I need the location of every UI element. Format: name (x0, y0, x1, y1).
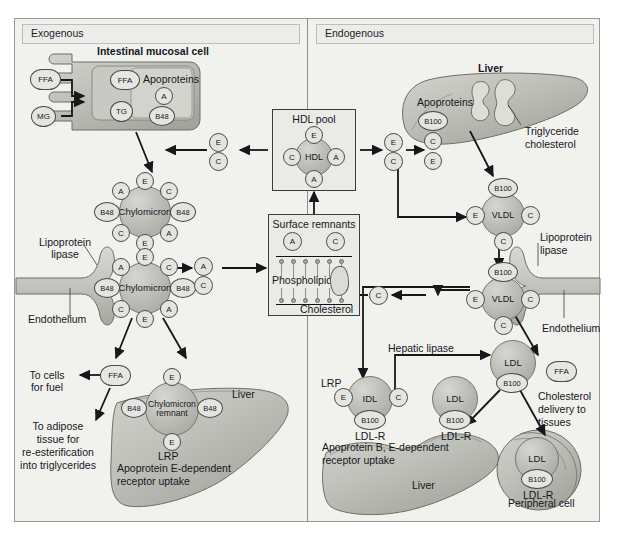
to-cells-label: To cellsfor fuel (16, 369, 78, 393)
idl-apo-e: E (334, 388, 353, 407)
endo-receptor-uptake-caption: Apoprotein B, E-dependentreceptor uptake (322, 441, 449, 466)
chylo-l-apo-b48-left: B48 (94, 278, 120, 298)
hdl-transfer-left-e: E (209, 133, 228, 152)
cholesterol-delivery-label: Cholesteroldelivery totissues (538, 390, 591, 429)
cell-ffa-badge: FFA (110, 70, 140, 90)
vldl-l-apo-b100: B100 (488, 262, 518, 282)
vldl-u-apo-c-bottom: C (494, 232, 513, 251)
banner-exogenous: Exogenous (22, 24, 300, 44)
peripheral-apo-b100: B100 (521, 469, 553, 489)
vldl-l-apo-c-right: C (521, 290, 540, 309)
vldl-l-apo-e: E (466, 290, 485, 309)
transfer-apo-c: C (194, 276, 213, 295)
hdl-apo-c: C (283, 148, 301, 166)
endothelium-label-exo: Endothelium (28, 313, 86, 325)
vldl-l-apo-c-bottom: C (494, 316, 513, 335)
chylo-l-apo-c-tr: C (160, 258, 178, 276)
apoproteins-title-endo: Apoproteins (417, 96, 473, 108)
apo-b48-badge-exo: B48 (149, 106, 175, 126)
banner-endogenous: Endogenous (316, 24, 594, 44)
lrp-label-exo: LRP (158, 450, 178, 462)
figure-root: Exogenous Endogenous (0, 0, 622, 548)
ffa-release-badge-endo: FFA (546, 361, 577, 382)
apo-c-badge-endo: C (424, 132, 442, 150)
remnant-apo-e-bottom: E (163, 433, 181, 451)
ffa-release-badge-exo: FFA (100, 365, 131, 386)
chylo-l-apo-a-tl: A (112, 258, 130, 276)
ldl-bound-apo-b100: B100 (439, 410, 471, 430)
triglyceride-cholesterol-label: Triglyceridecholesterol (525, 125, 579, 150)
liver-label-endo-top: Liver (478, 62, 503, 74)
chylo-l-apo-e-bottom: E (136, 310, 154, 328)
cholesterol-label: Cholesterol (300, 303, 353, 315)
to-adipose-label: To adiposetissue forre-esterificationint… (16, 420, 100, 472)
lipoprotein-lipase-label-exo: Lipoproteinlipase (22, 236, 108, 260)
chylo-u-apo-c-tr: C (160, 182, 178, 200)
chylo-u-apo-b48-left: B48 (94, 202, 120, 222)
chylo-u-apo-c-bl: C (112, 224, 130, 242)
vldl-u-apo-c-right: C (521, 206, 540, 225)
idl-apo-c: C (389, 388, 408, 407)
apo-b100-badge-endo: B100 (418, 111, 448, 131)
hdl-apo-a-bottom: A (305, 170, 323, 188)
chylo-l-apo-e-top: E (136, 248, 154, 266)
exo-receptor-uptake-caption: Apoprotein E-dependentreceptor uptake (117, 462, 231, 487)
ldl-free-apo-b100: B100 (496, 373, 528, 393)
hdl-apo-a-right: A (327, 148, 345, 166)
c-from-vldl-badge: C (369, 286, 388, 305)
phospholipid-head (279, 298, 284, 303)
peripheral-cell-label: Peripheral cell (508, 497, 575, 509)
transfer-apo-a: A (194, 257, 213, 276)
vldl-upper-core: VLDL (481, 193, 525, 237)
liver-label-exo: Liver (232, 388, 255, 400)
surface-apo-c: C (326, 232, 345, 251)
vldl-u-apo-b100: B100 (488, 178, 518, 198)
chylo-l-apo-b48-right: B48 (170, 278, 196, 298)
banner-exogenous-label: Exogenous (31, 27, 84, 39)
apo-a-badge-exo: A (155, 87, 173, 105)
hepatic-lipase-label: Hepatic lipase (388, 342, 454, 354)
intestinal-cell-title: Intestinal mucosal cell (78, 45, 228, 57)
chylo-l-apo-a-br: A (160, 300, 178, 318)
vldl-u-apo-e: E (466, 206, 485, 225)
hdl-apo-e: E (305, 126, 323, 144)
liver-label-endo-bottom: Liver (412, 479, 435, 491)
cell-tg-badge: TG (110, 101, 133, 122)
phospholipids-label: Phospholipids (272, 274, 337, 286)
surface-remnants-title: Surface remnants (268, 218, 360, 230)
ffa-input-badge: FFA (30, 69, 61, 90)
surface-apo-a: A (283, 232, 302, 251)
apoproteins-title-exo: Apoproteins (143, 73, 199, 85)
mg-input-badge: MG (31, 106, 56, 127)
hdl-transfer-left-c: C (209, 152, 228, 171)
banner-endogenous-label: Endogenous (325, 27, 384, 39)
apo-e-badge-endo: E (424, 152, 442, 170)
phospholipid-head (291, 298, 296, 303)
remnant-apo-e-top: E (163, 368, 181, 386)
chylo-u-apo-a-br: A (160, 224, 178, 242)
endothelium-label-endo: Endothelium (542, 322, 600, 334)
hdl-pool-title: HDL pool (272, 113, 356, 125)
remnant-apo-b48-right: B48 (197, 398, 223, 418)
idl-apo-b100: B100 (354, 410, 386, 430)
remnant-apo-b48-left: B48 (121, 398, 147, 418)
hdl-transfer-right-e: E (384, 133, 403, 152)
cholesterol-molecule (330, 266, 349, 296)
chylo-u-apo-e-top: E (136, 172, 154, 190)
lipoprotein-lipase-label-endo: Lipoproteinlipase (540, 231, 592, 256)
chylo-u-apo-b48-right: B48 (170, 202, 196, 222)
chylo-l-apo-c-bl: C (112, 300, 130, 318)
hdl-transfer-right-c: C (384, 152, 403, 171)
lrp-label-endo: LRP (321, 377, 341, 389)
membrane-line-top (276, 256, 352, 257)
chylo-u-apo-a-tl: A (112, 182, 130, 200)
chylomicron-remnant-core: Chylomicronremnant (145, 382, 199, 436)
vldl-lower-core: VLDL (481, 277, 525, 321)
